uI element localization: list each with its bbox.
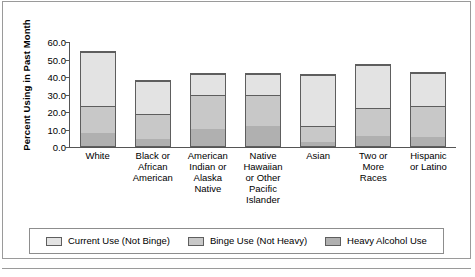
plot-area: 60.050.040.030.020.010.00.0 — [36, 42, 456, 147]
bar-segment — [81, 133, 115, 146]
bar-segment — [411, 106, 445, 138]
chart-legend: Current Use (Not Binge)Binge Use (Not He… — [29, 228, 444, 254]
x-axis-category-label: American Indian or Alaska Native — [180, 150, 235, 194]
figure-bottom-rule — [2, 268, 471, 269]
bar-segment — [301, 75, 335, 126]
y-axis-tick-mark — [65, 77, 69, 78]
legend-label: Current Use (Not Binge) — [68, 236, 170, 246]
legend-label: Heavy Alcohol Use — [347, 236, 427, 246]
x-axis-category-label: Two or More Races — [346, 150, 401, 183]
y-axis-tick-mark — [65, 130, 69, 131]
x-axis-category-label: Native Hawaiian or Other Pacific Islande… — [235, 150, 290, 205]
x-axis-category-label: White — [70, 150, 125, 161]
chart-figure: Percent Using in Past Month 60.050.040.0… — [0, 0, 475, 277]
bar-segment — [136, 114, 170, 139]
stacked-bar — [135, 80, 171, 147]
y-axis-tick-mark — [65, 60, 69, 61]
stacked-bar — [80, 51, 116, 147]
legend-item: Current Use (Not Binge) — [46, 236, 170, 246]
bar-segment — [356, 108, 390, 136]
y-axis-tick-label: 50.0 — [48, 55, 67, 64]
bar-segment — [191, 74, 225, 95]
bar-slot — [70, 42, 125, 147]
stacked-bar — [300, 74, 336, 147]
bar-segment — [136, 139, 170, 146]
stacked-bar — [355, 64, 391, 147]
bar-slot — [235, 42, 290, 147]
bars-container — [70, 42, 456, 147]
y-axis-tick-label: 20.0 — [48, 108, 67, 117]
bar-segment — [301, 126, 335, 141]
bar-slot — [346, 42, 401, 147]
bar-segment — [81, 52, 115, 106]
legend-swatch — [325, 237, 341, 246]
legend-swatch — [46, 237, 62, 246]
bar-segment — [246, 95, 280, 126]
bar-segment — [301, 142, 335, 146]
y-axis-tick-label: 40.0 — [48, 73, 67, 82]
x-axis-category-label: Black or African American — [125, 150, 180, 183]
bar-slot — [180, 42, 235, 147]
y-axis-tick-label: 10.0 — [48, 125, 67, 134]
y-axis-tick-mark — [65, 95, 69, 96]
bar-segment — [81, 106, 115, 133]
legend-item: Binge Use (Not Heavy) — [188, 236, 307, 246]
stacked-bar — [245, 73, 281, 147]
x-axis-category-label: Hispanic or Latino — [401, 150, 456, 172]
bar-slot — [125, 42, 180, 147]
bar-slot — [401, 42, 456, 147]
stacked-bar — [190, 73, 226, 147]
legend-item: Heavy Alcohol Use — [325, 236, 427, 246]
y-axis-title: Percent Using in Past Month — [18, 10, 36, 160]
legend-swatch — [188, 237, 204, 246]
bar-segment — [356, 65, 390, 108]
x-axis-line — [69, 147, 456, 148]
y-axis-tick-mark — [65, 112, 69, 113]
y-axis-tick-labels: 60.050.040.030.020.010.00.0 — [36, 42, 66, 147]
bar-segment — [356, 136, 390, 146]
x-axis-category-label: Asian — [291, 150, 346, 161]
y-axis-tick-label: 30.0 — [48, 90, 67, 99]
bar-segment — [411, 137, 445, 146]
bar-slot — [291, 42, 346, 147]
bar-segment — [191, 129, 225, 146]
y-axis-tick-mark — [65, 42, 69, 43]
x-axis-category-labels: WhiteBlack or African AmericanAmerican I… — [70, 150, 456, 210]
y-axis-tick-label: 60.0 — [48, 38, 67, 47]
legend-label: Binge Use (Not Heavy) — [210, 236, 307, 246]
bar-segment — [136, 81, 170, 114]
bar-segment — [411, 73, 445, 106]
bar-segment — [191, 95, 225, 129]
bar-segment — [246, 74, 280, 95]
stacked-bar — [410, 72, 446, 147]
bar-segment — [246, 126, 280, 146]
